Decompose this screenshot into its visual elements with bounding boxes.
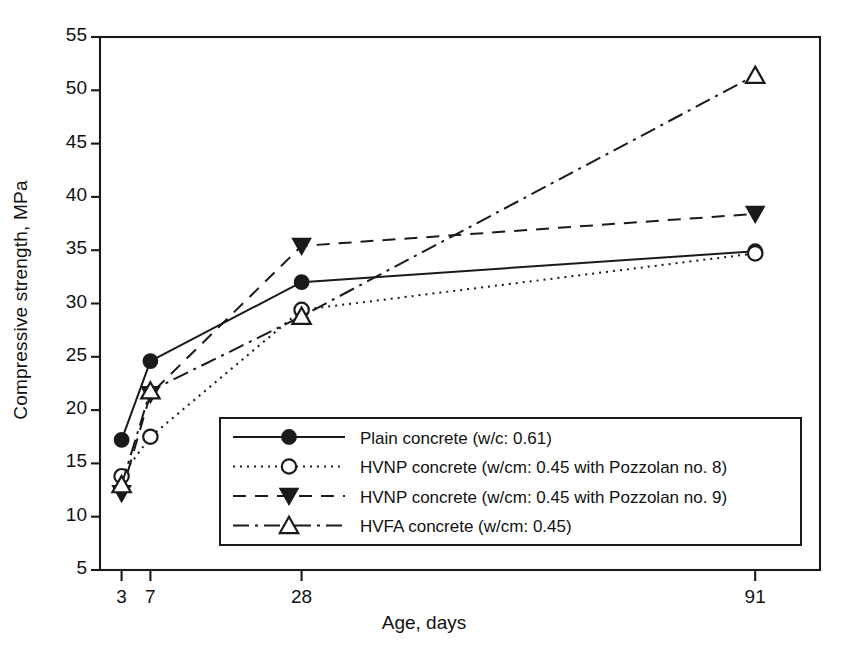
y-tick-label: 45	[43, 131, 87, 153]
x-tick-label: 7	[145, 586, 156, 608]
y-tick-label: 10	[43, 504, 87, 526]
marker-filled-circle	[143, 354, 157, 368]
series-line-0	[122, 251, 756, 440]
legend-marker	[282, 430, 296, 444]
legend-label: HVFA concrete (w/cm: 0.45)	[360, 517, 572, 536]
marker-open-circle	[143, 430, 157, 444]
x-tick-label: 3	[116, 586, 127, 608]
marker-filled-circle	[114, 433, 128, 447]
series-0	[114, 244, 762, 447]
legend-label: Plain concrete (w/c: 0.61)	[360, 429, 552, 448]
marker-filled-circle	[294, 275, 308, 289]
y-tick-label: 15	[43, 450, 87, 472]
data-point	[114, 433, 128, 447]
data-point	[292, 238, 310, 254]
chart-figure: Compressive strength, MPa Age, days Plai…	[0, 0, 848, 653]
y-tick-label: 20	[43, 397, 87, 419]
data-point	[294, 275, 308, 289]
marker-open-circle	[282, 459, 296, 473]
marker-open-triangle-up	[746, 67, 764, 83]
data-point	[748, 246, 762, 260]
marker-filled-triangle-down	[746, 206, 764, 222]
legend-marker	[282, 459, 296, 473]
legend-label: HVNP concrete (w/cm: 0.45 with Pozzolan …	[360, 488, 727, 507]
y-tick-label: 40	[43, 184, 87, 206]
legend-label: HVNP concrete (w/cm: 0.45 with Pozzolan …	[360, 458, 727, 477]
x-tick-label: 28	[291, 586, 312, 608]
x-axis-title: Age, days	[0, 612, 848, 634]
data-point	[746, 206, 764, 222]
y-tick-label: 35	[43, 237, 87, 259]
data-point	[143, 354, 157, 368]
x-tick-label: 91	[745, 586, 766, 608]
marker-filled-circle	[282, 430, 296, 444]
y-tick-label: 5	[43, 557, 87, 579]
plot-area: Plain concrete (w/c: 0.61)HVNP concrete …	[0, 0, 848, 653]
y-tick-label: 30	[43, 291, 87, 313]
data-point	[746, 67, 764, 83]
y-tick-label: 25	[43, 344, 87, 366]
y-tick-label: 55	[43, 24, 87, 46]
marker-filled-triangle-down	[292, 238, 310, 254]
data-point	[143, 430, 157, 444]
y-tick-label: 50	[43, 77, 87, 99]
legend-box: Plain concrete (w/c: 0.61)HVNP concrete …	[220, 418, 801, 545]
marker-open-circle	[748, 246, 762, 260]
